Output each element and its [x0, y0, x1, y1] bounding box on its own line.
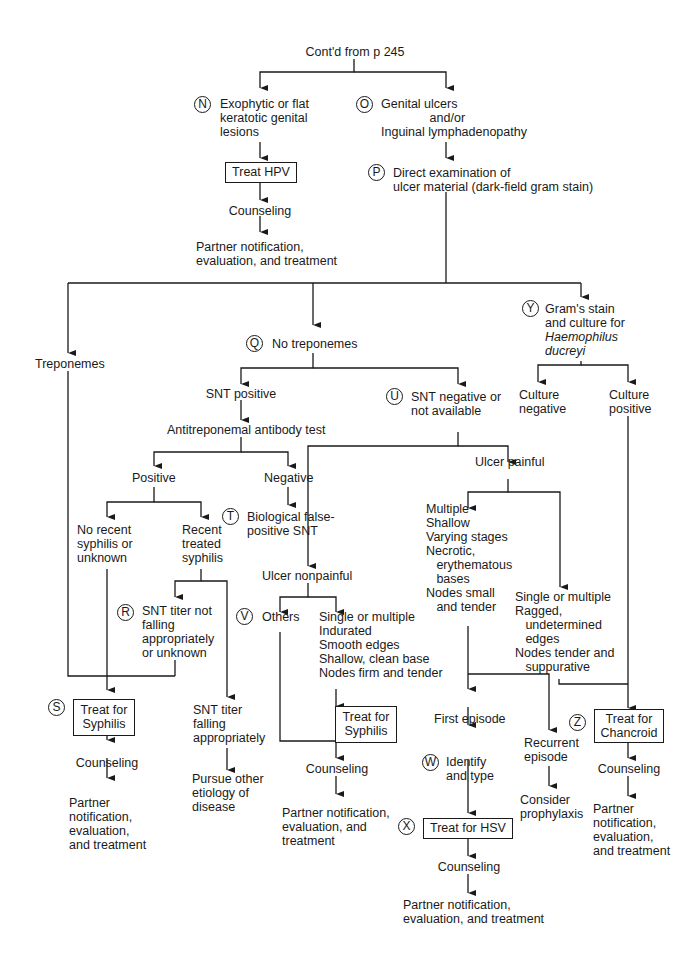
pursue-other-etiology-label: Pursue other etiology of disease: [192, 772, 264, 814]
first-episode-label: First episode: [434, 712, 506, 726]
ulcer-nonpainful-label: Ulcer nonpainful: [262, 569, 352, 583]
culture-negative-label: Culture negative: [519, 388, 566, 416]
step-r-marker: R: [117, 604, 134, 621]
recurrent-episode-label: Recurrent episode: [524, 736, 579, 764]
no-recent-syphilis-label: No recent syphilis or unknown: [77, 523, 133, 565]
step-z-marker: Z: [569, 714, 586, 731]
step-o-marker: O: [356, 96, 373, 113]
std-flowchart: Cont'd from p 245 N Exophytic or flat ke…: [0, 0, 700, 956]
exophytic-lesions-label: Exophytic or flat keratotic genital lesi…: [220, 97, 309, 139]
biological-false-positive-label: Biological false- positive SNT: [247, 510, 335, 538]
step-p-marker: P: [368, 164, 385, 181]
counseling-hsv: Counseling: [424, 860, 514, 874]
partner-notification-hsv: Partner notification, evaluation, and tr…: [403, 898, 544, 926]
consider-prophylaxis-label: Consider prophylaxis: [520, 793, 583, 821]
painful-multiple-features: Multiple Shallow Varying stages Necrotic…: [426, 502, 512, 614]
haemophilus-ducreyi-label: Haemophilus ducreyi: [545, 330, 618, 358]
snt-titer-falling-label: SNT titer falling appropriately: [193, 703, 265, 745]
counseling-chancroid: Counseling: [584, 762, 674, 776]
partner-notification-chancroid: Partner notification, evaluation, and tr…: [593, 802, 670, 858]
treponemes-label: Treponemes: [35, 357, 105, 371]
culture-positive-label: Culture positive: [609, 388, 651, 416]
partner-notification-syphilis: Partner notification, evaluation, and tr…: [69, 796, 146, 852]
others-label: Others: [262, 610, 300, 624]
identify-type-label: Identify and type: [446, 755, 494, 783]
step-s-marker: S: [48, 699, 65, 716]
snt-positive-label: SNT positive: [196, 387, 286, 401]
snt-titer-not-falling-label: SNT titer not falling appropriately or u…: [142, 604, 214, 660]
step-n-marker: N: [194, 96, 211, 113]
step-x-marker: X: [398, 818, 415, 835]
treat-hpv-box: Treat HPV: [225, 162, 297, 183]
direct-examination-label: Direct examination of ulcer material (da…: [393, 166, 593, 194]
painful-single-features: Single or multiple Ragged, undetermined …: [515, 590, 614, 674]
counseling-mid: Counseling: [292, 762, 382, 776]
recent-treated-syphilis-label: Recent treated syphilis: [182, 523, 223, 565]
nonpainful-single-features: Single or multiple Indurated Smooth edge…: [319, 610, 443, 680]
counseling-syphilis: Counseling: [62, 756, 152, 770]
grams-stain-label: Gram's stain and culture for: [545, 302, 625, 330]
ab-positive-label: Positive: [132, 471, 176, 485]
treat-syphilis-box-2: Treat for Syphilis: [335, 706, 397, 743]
step-t-marker: T: [222, 508, 239, 525]
ulcer-painful-label: Ulcer painful: [475, 455, 544, 469]
step-u-marker: U: [386, 388, 403, 405]
genital-ulcers-label: Genital ulcers and/or Inguinal lymphaden…: [381, 97, 527, 139]
partner-notification-hpv: Partner notification, evaluation, and tr…: [196, 240, 337, 268]
treat-hsv-box: Treat for HSV: [423, 818, 513, 839]
step-y-marker: Y: [522, 300, 539, 317]
step-w-marker: W: [422, 754, 439, 771]
ab-negative-label: Negative: [264, 471, 313, 485]
snt-negative-label: SNT negative or not available: [411, 390, 501, 418]
no-treponemes-label: No treponemes: [272, 337, 357, 351]
step-v-marker: V: [236, 608, 253, 625]
counseling-hpv: Counseling: [215, 204, 305, 218]
treat-syphilis-box: Treat for Syphilis: [73, 699, 135, 736]
start-label: Cont'd from p 245: [300, 45, 410, 59]
step-q-marker: Q: [246, 335, 263, 352]
treat-chancroid-box: Treat for Chancroid: [594, 709, 664, 743]
antibody-test-label: Antitreponemal antibody test: [167, 423, 325, 437]
partner-notification-mid: Partner notification, evaluation, and tr…: [282, 806, 390, 848]
